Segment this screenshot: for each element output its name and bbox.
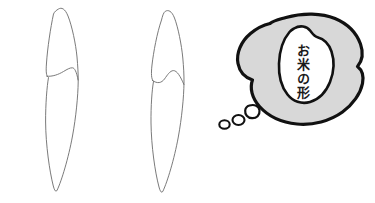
illustration-canvas: お米の形: [0, 0, 375, 203]
thought-trail-bubbles: [219, 105, 259, 129]
thought-trail-bubble-medium: [233, 115, 245, 125]
thought-trail-bubble-small: [219, 120, 229, 129]
thought-trail-bubble-large: [245, 105, 259, 118]
drawing-surface: [0, 0, 375, 203]
middle-grain-outline: [151, 11, 184, 193]
middle-grain-figure: [151, 11, 184, 193]
left-grain-outline: [46, 8, 79, 191]
left-grain-figure: [46, 8, 79, 191]
